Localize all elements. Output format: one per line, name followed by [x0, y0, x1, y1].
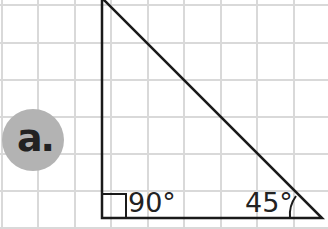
figure-label: a.	[9, 116, 61, 160]
acute-angle-label: 45°	[245, 187, 293, 219]
right-angle-label: 90°	[128, 187, 176, 219]
right-angle-marker	[102, 194, 126, 218]
triangle	[102, 0, 322, 218]
